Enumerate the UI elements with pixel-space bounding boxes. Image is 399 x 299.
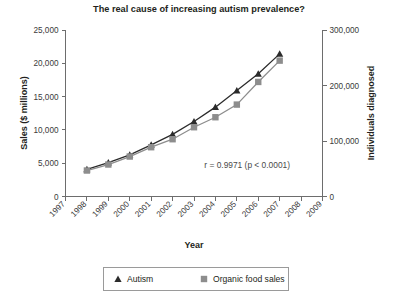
- data-point: [169, 136, 175, 142]
- data-point: [276, 57, 282, 63]
- y-axis-right-tick-label: 100,000: [330, 137, 360, 146]
- y-axis-left-tick-label: 0: [54, 193, 59, 202]
- legend-marker-triangle: [114, 275, 121, 281]
- x-axis-tick-label: 2003: [176, 199, 196, 219]
- y-axis-right-tick-label: 300,000: [330, 26, 360, 35]
- correlation-annotation: r = 0.9971 (p < 0.0001): [204, 160, 290, 170]
- data-point: [234, 101, 240, 107]
- chart-figure: The real cause of increasing autism prev…: [0, 0, 399, 299]
- x-axis-tick-label: 1999: [91, 199, 111, 219]
- y-axis-right-ticks: 0100,000200,000300,000: [323, 26, 360, 202]
- y-axis-left-title: Sales ($ millions): [19, 76, 29, 150]
- data-point: [84, 167, 90, 173]
- data-point: [255, 79, 261, 85]
- y-axis-left-tick-label: 15,000: [33, 93, 58, 102]
- x-axis-tick-label: 1997: [48, 199, 68, 219]
- x-axis-title: Year: [184, 240, 204, 250]
- y-axis-left-tick-label: 20,000: [33, 59, 58, 68]
- series-autism: [83, 50, 283, 172]
- chart-title: The real cause of increasing autism prev…: [93, 4, 305, 14]
- x-axis-tick-label: 2006: [240, 199, 260, 219]
- x-axis-tick-label: 2001: [133, 199, 153, 219]
- chart-canvas: The real cause of increasing autism prev…: [0, 0, 399, 299]
- chart-legend: AutismOrganic food sales: [104, 268, 289, 291]
- legend-label: Organic food sales: [213, 274, 285, 284]
- data-point: [212, 114, 218, 120]
- x-axis-tick-label: 1998: [69, 199, 89, 219]
- y-axis-left-tick-label: 25,000: [33, 26, 58, 35]
- x-axis-tick-label: 2002: [155, 199, 175, 219]
- legend-marker-square: [201, 276, 207, 282]
- data-point: [127, 153, 133, 159]
- data-point: [190, 118, 197, 124]
- y-axis-left-tick-label: 5,000: [38, 159, 59, 168]
- legend-label: Autism: [127, 274, 153, 284]
- x-axis-tick-label: 2007: [262, 199, 282, 219]
- y-axis-right-title: Individuals diagnosed: [366, 66, 376, 161]
- x-axis-ticks: 1997199819992000200120022003200420052006…: [48, 197, 325, 219]
- data-point: [191, 124, 197, 130]
- series-line: [87, 54, 280, 169]
- x-axis-tick-label: 2000: [112, 199, 132, 219]
- y-axis-left-ticks: 05,00010,00015,00020,00025,000: [33, 26, 65, 202]
- data-point: [276, 50, 283, 56]
- x-axis-tick-label: 2009: [305, 199, 325, 219]
- y-axis-right-tick-label: 0: [330, 193, 335, 202]
- x-axis-tick-label: 2005: [219, 199, 239, 219]
- y-axis-left-tick-label: 10,000: [33, 126, 58, 135]
- x-axis-tick-label: 2004: [198, 199, 218, 219]
- x-axis-tick-label: 2008: [283, 199, 303, 219]
- series-layer: [83, 50, 283, 173]
- y-axis-right-tick-label: 200,000: [330, 82, 360, 91]
- data-point: [148, 144, 154, 150]
- data-point: [105, 161, 111, 167]
- series-line: [87, 61, 280, 171]
- series-organic-food-sales: [84, 57, 283, 173]
